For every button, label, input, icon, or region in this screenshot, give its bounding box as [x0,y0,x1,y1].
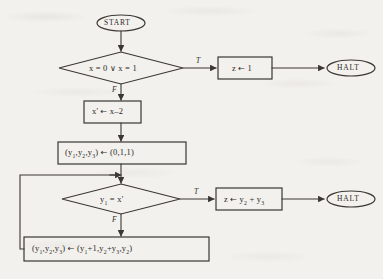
edge-update-loopback [20,175,118,249]
node-cond1-label: x = 0 ∨ x = 1 [89,63,137,73]
node-halt2-label: HALT [337,194,360,203]
node-update-label: (y1,y2,y3) ← (y1+1,y2+y3,y2) [32,243,132,255]
flowchart-canvas: START x = 0 ∨ x = 1 T F z ← 1 HALT x' ← … [0,0,383,279]
flowchart-graphics [0,0,383,279]
node-xprime-label: x' ← x–2 [92,106,123,116]
node-halt1-label: HALT [337,63,360,72]
node-setzsum-label: z ← y2 + y3 [224,194,264,206]
node-inity-label: (y1,y2,y3) ← (0,1,1) [65,147,134,159]
edge-cond2-false-label: F [112,215,117,224]
node-start-label: START [104,18,131,27]
node-setz1-label: z ← 1 [232,63,252,73]
edge-cond1-false-label: F [112,85,117,94]
node-cond2-label: y1 = x' [100,194,123,206]
edge-cond2-true-label: T [194,187,198,196]
edge-cond1-true-label: T [196,56,200,65]
